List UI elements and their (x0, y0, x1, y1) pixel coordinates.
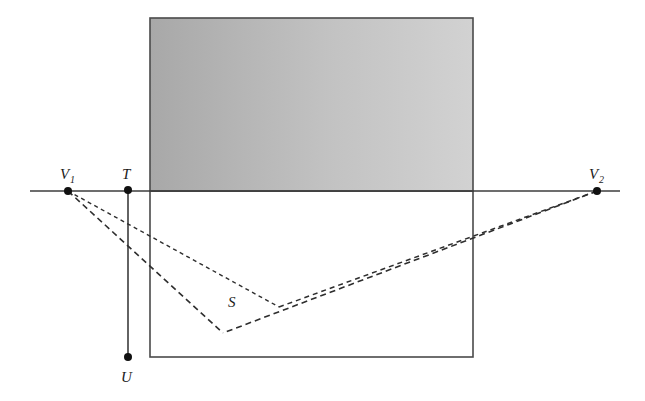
point-marker-T (124, 186, 132, 194)
perspective-diagram-figure: V 1 T U V 2 S (0, 0, 645, 401)
point-marker-V2 (593, 187, 601, 195)
ground-rectangle (150, 191, 473, 357)
region-label-S: S (228, 294, 236, 310)
point-label-V1-subscript: 1 (70, 174, 75, 185)
point-marker-U (124, 353, 132, 361)
diagram-canvas: V 1 T U V 2 S (0, 0, 645, 401)
point-label-U: U (121, 369, 133, 385)
point-label-T: T (122, 166, 132, 182)
point-marker-V1 (64, 187, 72, 195)
shaded-rectangle (150, 18, 473, 191)
point-label-V2-subscript: 2 (599, 174, 604, 185)
